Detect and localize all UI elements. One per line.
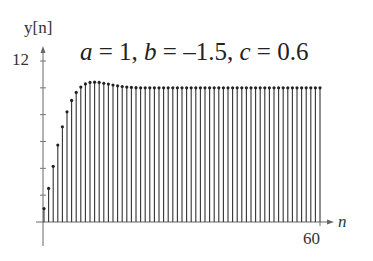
x-axis-label: n: [338, 212, 347, 232]
stem-marker: [157, 86, 160, 89]
stem-marker: [180, 86, 183, 89]
stem-marker: [47, 187, 50, 190]
y-axis-label: y[n]: [24, 18, 52, 38]
stem-marker: [226, 86, 229, 89]
stem-marker: [199, 86, 202, 89]
stem-marker: [222, 86, 225, 89]
y-tick-label-12: 12: [12, 50, 29, 70]
stem-marker: [203, 86, 206, 89]
title-b-label: b: [144, 38, 157, 65]
stem-marker: [167, 86, 170, 89]
title-b-value: –1.5: [183, 38, 227, 65]
title-c-value: 0.6: [277, 38, 308, 65]
stem-marker: [217, 86, 220, 89]
stem-marker: [231, 86, 234, 89]
stem-marker: [300, 86, 303, 89]
title-a-value: 1: [119, 38, 132, 65]
stem-marker: [268, 86, 271, 89]
stem-marker: [305, 86, 308, 89]
chart-title: a = 1, b = –1.5, c = 0.6: [80, 38, 308, 66]
title-a-label: a: [80, 38, 93, 65]
stem-marker: [236, 86, 239, 89]
stem-marker: [139, 86, 142, 89]
stem-marker: [318, 86, 321, 89]
stem-marker: [190, 86, 193, 89]
stem-marker: [56, 144, 59, 147]
stem-marker: [79, 85, 82, 88]
stem-marker: [61, 125, 64, 128]
stem-marker: [176, 86, 179, 89]
stem-marker: [102, 82, 105, 85]
stem-marker: [240, 86, 243, 89]
stem-marker: [107, 82, 110, 85]
stem-marker: [263, 86, 266, 89]
stem-marker: [282, 86, 285, 89]
stem-marker: [98, 81, 101, 84]
stem-marker: [116, 84, 119, 87]
stem-marker: [121, 85, 124, 88]
stem-marker: [125, 85, 128, 88]
stem-marker: [291, 86, 294, 89]
stem-marker: [153, 86, 156, 89]
stem-marker: [295, 86, 298, 89]
x-tick-label-60: 60: [303, 229, 320, 249]
stem-marker: [245, 86, 248, 89]
stem-marker: [93, 81, 96, 84]
stem-marker: [75, 91, 78, 94]
y-axis-arrow-icon: [41, 46, 46, 53]
title-c-label: c: [239, 38, 250, 65]
stem-marker: [194, 86, 197, 89]
stem-marker: [162, 86, 165, 89]
stem-marker: [171, 86, 174, 89]
stem-marker: [134, 86, 137, 89]
stem-marker: [148, 86, 151, 89]
stem-marker: [286, 86, 289, 89]
stem-marker: [208, 86, 211, 89]
stem-marker: [130, 86, 133, 89]
stem-marker: [144, 86, 147, 89]
stem-marker: [277, 86, 280, 89]
stem-marker: [111, 83, 114, 86]
stem-marker: [213, 86, 216, 89]
stem-marker: [314, 86, 317, 89]
stem-marker: [309, 86, 312, 89]
stem-marker: [84, 82, 87, 85]
stem-marker: [259, 86, 262, 89]
stem-marker: [272, 86, 275, 89]
stem-marker: [65, 110, 68, 113]
stem-marker: [52, 165, 55, 168]
stem-marker: [254, 86, 257, 89]
stem-marker: [185, 86, 188, 89]
stem-marker: [42, 207, 45, 210]
stem-marker: [249, 86, 252, 89]
stem-marker: [70, 99, 73, 102]
stem-marker: [88, 81, 91, 84]
x-axis-arrow-icon: [327, 220, 334, 225]
